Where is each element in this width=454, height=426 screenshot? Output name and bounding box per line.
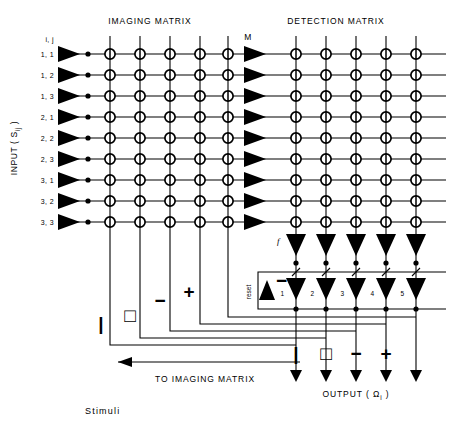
row-header-ij: i, j	[45, 36, 54, 44]
input-amplifiers	[58, 46, 80, 230]
detector-triangle-3	[346, 278, 366, 300]
feedback-symbol-bar: |	[98, 313, 103, 334]
imaging-matrix-title: IMAGING MATRIX	[108, 16, 191, 26]
feedback-symbol-minus: −	[154, 290, 165, 311]
f-triangle-4	[376, 234, 396, 256]
reset-amplifier-triangle	[259, 280, 275, 300]
output-arrow-4	[380, 370, 392, 382]
f-triangle-2	[316, 234, 336, 256]
detection-column-lines	[296, 36, 416, 380]
reset-label: reset	[245, 285, 252, 300]
detector-number-2: 2	[310, 290, 314, 297]
mid-amplifier-2	[244, 67, 266, 83]
row-label-2-3: 2, 3	[41, 156, 54, 163]
f-triangle-3	[346, 234, 366, 256]
row-label-1-2: 1, 2	[41, 72, 54, 79]
amplifier-column-label-m: M	[244, 32, 252, 42]
input-amplifier-9	[58, 214, 80, 230]
input-amplifier-1	[58, 46, 80, 62]
feedback-symbol-plus: +	[183, 281, 194, 302]
input-amplifier-3	[58, 88, 80, 104]
figure-canvas: IMAGING MATRIX DETECTION MATRIX INPUT ( …	[0, 0, 454, 426]
to-imaging-matrix-label: TO IMAGING MATRIX	[155, 374, 255, 384]
detector-triangle-4	[376, 278, 396, 300]
input-amplifier-5	[58, 130, 80, 146]
mid-amplifier-1	[244, 46, 266, 62]
detector-triangles	[286, 278, 426, 300]
detector-triangle-2	[316, 278, 336, 300]
output-label-head: OUTPUT ( Ω	[322, 389, 380, 399]
output-symbol-bar: |	[293, 343, 298, 364]
output-symbol-square: □	[320, 343, 332, 364]
svg-text:INPUT ( Sij ): INPUT ( Sij )	[9, 121, 22, 175]
detection-matrix-title: DETECTION MATRIX	[287, 16, 384, 26]
input-amplifier-6	[58, 151, 80, 167]
f-stage-nodes	[293, 260, 418, 265]
input-node-dots	[85, 51, 90, 224]
row-label-2-2: 2, 2	[41, 135, 54, 142]
input-amplifier-2	[58, 67, 80, 83]
row-label-2-1: 2, 1	[41, 114, 54, 121]
input-axis-label: INPUT ( Sij )	[9, 121, 22, 175]
svg-text:reset: reset	[245, 285, 252, 300]
output-arrow-2	[320, 370, 332, 382]
row-label-3-3: 3, 3	[41, 219, 54, 226]
output-arrows	[290, 370, 422, 382]
reset-minus-sign: −	[276, 270, 287, 291]
row-label-3-1: 3, 1	[41, 177, 54, 184]
output-arrow-5	[410, 370, 422, 382]
mid-amplifier-5	[244, 130, 266, 146]
detector-triangle-1	[286, 278, 306, 300]
output-arrow-3	[350, 370, 362, 382]
return-bus	[118, 357, 300, 367]
schematic-svg: IMAGING MATRIX DETECTION MATRIX INPUT ( …	[0, 0, 454, 426]
output-label: OUTPUT ( Ωi )	[322, 389, 389, 401]
detector-number-4: 4	[370, 290, 374, 297]
input-amplifier-4	[58, 109, 80, 125]
detector-number-5: 5	[400, 290, 404, 297]
detector-number-3: 3	[340, 290, 344, 297]
row-label-3-2: 3, 2	[41, 198, 54, 205]
output-symbol-plus: +	[380, 343, 391, 364]
mid-amplifier-7	[244, 172, 266, 188]
mid-amplifier-3	[244, 88, 266, 104]
feedback-gain-label-f: f	[277, 236, 281, 246]
output-symbol-minus: −	[350, 343, 361, 364]
input-axis-text: INPUT ( S	[9, 131, 19, 175]
row-label-1-1: 1, 1	[41, 51, 54, 58]
f-triangle-1	[286, 234, 306, 256]
row-label-1-3: 1, 3	[41, 93, 54, 100]
f-stage-triangles	[286, 234, 426, 256]
input-amplifier-7	[58, 172, 80, 188]
mid-amplifier-9	[244, 214, 266, 230]
input-amplifier-8	[58, 193, 80, 209]
input-axis-tail: )	[9, 121, 19, 127]
detector-number-1: 1	[280, 290, 284, 297]
mid-amplifier-8	[244, 193, 266, 209]
mid-amplifiers	[244, 46, 266, 230]
mid-amplifier-4	[244, 109, 266, 125]
output-label-tail: )	[383, 389, 390, 399]
mid-amplifier-6	[244, 151, 266, 167]
return-arrowhead	[118, 357, 132, 367]
feedback-symbol-square: □	[124, 305, 136, 326]
detector-triangle-5	[406, 278, 426, 300]
output-arrow-1	[290, 370, 302, 382]
f-triangle-5	[406, 234, 426, 256]
caption-stimuli: Stimuli	[85, 406, 120, 416]
